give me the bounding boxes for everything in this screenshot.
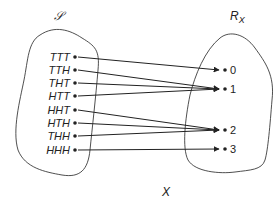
outcome-label: HTH (47, 117, 70, 129)
random-variable-mapping-diagram: 𝒮 RX X TTTTTHTHTHTTHHTHTHTHHHHH 0123 (0, 0, 280, 205)
mapping-arrow (78, 57, 219, 70)
outcome-dot (73, 94, 77, 98)
value-dot (223, 147, 227, 151)
outcome-list: TTTTTHTHTHTTHHTHTHTHHHHH (46, 51, 77, 156)
mapping-arrow (78, 89, 219, 96)
outcome-label: HHT (47, 104, 71, 116)
outcome-dot (73, 81, 77, 85)
outcome-dot (73, 121, 77, 125)
outcome-label: TTH (49, 64, 70, 76)
mapping-arrow (78, 130, 219, 136)
value-dot (223, 87, 227, 91)
outcome-label: TTT (50, 51, 71, 63)
range-region (185, 34, 273, 173)
value-label: 1 (230, 83, 236, 95)
sample-space-label: 𝒮 (54, 9, 67, 23)
outcome-dot (73, 108, 77, 112)
value-list: 0123 (223, 64, 236, 155)
outcome-label: HHH (46, 144, 70, 156)
outcome-dot (73, 68, 77, 72)
value-label: 0 (230, 64, 236, 76)
value-dot (223, 128, 227, 132)
range-label: RX (230, 9, 246, 25)
value-label: 3 (230, 143, 236, 155)
outcome-dot (73, 134, 77, 138)
function-label: X (161, 185, 171, 199)
outcome-dot (73, 148, 77, 152)
outcome-dot (73, 55, 77, 59)
outcome-label: THH (47, 130, 70, 142)
outcome-label: HTT (49, 90, 72, 102)
outcome-label: THT (49, 77, 72, 89)
value-label: 2 (230, 124, 236, 136)
value-dot (223, 68, 227, 72)
mapping-arrow (78, 149, 219, 150)
